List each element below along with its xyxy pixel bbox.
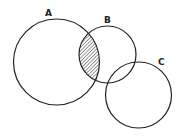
label-a: A [45, 9, 52, 18]
label-b: B [104, 16, 111, 25]
venn-diagram [0, 0, 182, 137]
circle-c [106, 62, 172, 128]
label-c: C [158, 58, 165, 67]
